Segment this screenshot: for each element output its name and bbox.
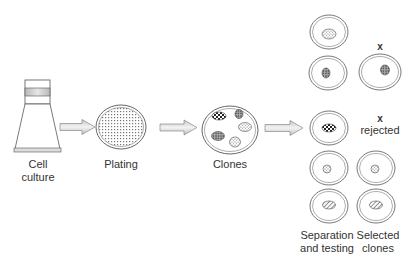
arrow-icon xyxy=(60,120,95,135)
petri-dish-icon xyxy=(357,151,395,185)
label-line: Separation xyxy=(300,229,354,242)
label-line: culture xyxy=(21,171,54,184)
petri-dish-icon xyxy=(310,15,348,49)
diagram-canvas xyxy=(0,0,416,266)
culture-flask-icon xyxy=(14,80,61,152)
rejected-label: rejected xyxy=(360,124,399,137)
separation-label: Separation and testing xyxy=(300,229,354,255)
petri-dish-icon xyxy=(310,111,348,145)
arrow-icon xyxy=(265,121,303,136)
reject-mark: x xyxy=(377,42,383,52)
clones-label: Clones xyxy=(213,158,247,171)
plating-label: Plating xyxy=(104,158,138,171)
cell-culture-label: Cell culture xyxy=(21,158,54,184)
label-line: Selected xyxy=(357,229,400,242)
plating-dish-icon xyxy=(96,105,146,149)
petri-dish-icon xyxy=(310,189,348,223)
label-line: Cell xyxy=(21,158,54,171)
selected-clones-label: Selected clones xyxy=(357,229,400,255)
clones-dish-icon xyxy=(202,106,258,154)
petri-dish-icon xyxy=(309,56,347,90)
petri-dish-icon xyxy=(357,189,395,223)
reject-mark: x xyxy=(377,114,383,124)
arrow-icon xyxy=(160,120,197,135)
label-line: and testing xyxy=(300,242,354,255)
petri-dish-icon xyxy=(310,151,348,185)
label-line: clones xyxy=(357,242,400,255)
petri-dish-icon xyxy=(359,54,401,90)
